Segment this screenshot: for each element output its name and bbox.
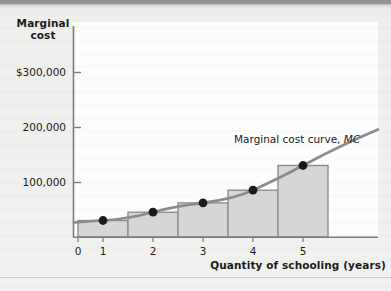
- y-axis-title: Marginal cost: [16, 17, 70, 41]
- y-tick-label-300000: $300,000: [2, 66, 66, 78]
- curve-annotation-text: Marginal cost curve,: [234, 133, 344, 145]
- x-axis-title: Quantity of schooling (years): [196, 259, 386, 271]
- y-axis-title-line2: cost: [30, 29, 55, 41]
- y-axis-title-line1: Marginal: [17, 17, 70, 29]
- curve-annotation-symbol: MC: [344, 133, 360, 145]
- bar-3: [178, 203, 228, 237]
- data-point-3: [199, 199, 208, 208]
- x-tick-label-0: 0: [67, 245, 89, 257]
- data-point-2: [149, 208, 158, 217]
- data-point-5: [299, 161, 308, 170]
- curve-annotation-label: Marginal cost curve, MC: [234, 133, 360, 145]
- data-point-4: [249, 186, 258, 195]
- x-tick-label-2: 2: [142, 245, 164, 257]
- y-tick-label-200000: 200,000: [2, 121, 66, 133]
- y-tick-label-100000: 100,000: [2, 176, 66, 188]
- bar-5: [278, 166, 328, 238]
- x-tick-label-3: 3: [192, 245, 214, 257]
- x-tick-label-1: 1: [92, 245, 114, 257]
- x-tick-label-5: 5: [292, 245, 314, 257]
- data-point-1: [99, 216, 108, 225]
- x-tick-label-4: 4: [242, 245, 264, 257]
- figure-container: Marginal cost Quantity of schooling (yea…: [0, 0, 391, 291]
- y-tick-marks: [74, 73, 82, 183]
